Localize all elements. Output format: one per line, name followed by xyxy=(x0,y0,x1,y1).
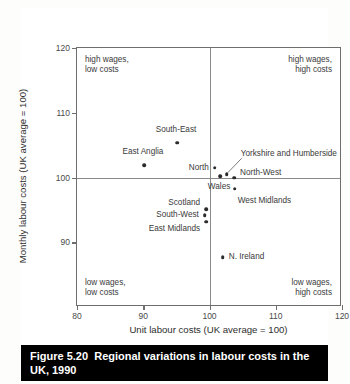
y-tick-label: 120 xyxy=(56,43,70,53)
chart-panel: Monthly labour costs (UK average = 100) … xyxy=(21,8,328,345)
quadrant-note-bottom-left: low wages, low costs xyxy=(85,278,126,299)
x-tick-label: 90 xyxy=(139,311,148,321)
y-tick-label: 110 xyxy=(56,108,70,118)
x-tick-mark xyxy=(342,305,343,310)
data-point xyxy=(213,166,217,170)
reference-line-vertical xyxy=(210,48,211,305)
data-point xyxy=(221,255,225,259)
figure-number: Figure 5.20 xyxy=(30,350,88,362)
data-point-label: North xyxy=(189,163,209,172)
x-tick-mark xyxy=(143,305,144,310)
y-tick-mark xyxy=(72,242,77,243)
y-tick-label: 90 xyxy=(61,237,70,247)
x-tick-label: 110 xyxy=(269,311,283,321)
x-tick-mark xyxy=(77,305,78,310)
y-tick-mark xyxy=(72,48,77,49)
y-tick-label: 100 xyxy=(56,173,70,183)
plot-area: high wages, low costs high wages, high c… xyxy=(76,47,341,306)
data-point xyxy=(232,176,236,180)
reference-line-horizontal xyxy=(77,178,340,179)
y-tick-mark xyxy=(72,178,77,179)
data-point-label: South-East xyxy=(156,125,197,134)
data-point-label: Wales xyxy=(208,183,230,192)
data-point-label: East Midlands xyxy=(149,224,200,233)
data-point-label: West Midlands xyxy=(238,196,292,205)
data-point-label: N. Ireland xyxy=(229,253,265,262)
x-tick-label: 120 xyxy=(335,311,349,321)
y-tick-mark xyxy=(72,113,77,114)
x-tick-label: 80 xyxy=(72,311,81,321)
data-point xyxy=(204,207,208,211)
data-point xyxy=(175,141,179,145)
data-point xyxy=(225,172,229,176)
quadrant-note-top-left: high wages, low costs xyxy=(85,55,129,76)
x-tick-mark xyxy=(210,305,211,310)
x-axis-label: Unit labour costs (UK average = 100) xyxy=(76,324,341,335)
data-point-label: North-West xyxy=(240,168,281,177)
data-point xyxy=(218,174,222,178)
data-point xyxy=(204,220,208,224)
quadrant-note-top-right: high wages, high costs xyxy=(288,55,332,76)
data-point-label: Scotland xyxy=(168,199,200,208)
data-point-label: Yorkshire and Humberside xyxy=(241,150,337,159)
x-tick-mark xyxy=(276,305,277,310)
data-point xyxy=(142,163,146,167)
x-tick-label: 100 xyxy=(202,311,216,321)
quadrant-note-bottom-right: low wages, high costs xyxy=(291,278,332,299)
data-point-label: South-West xyxy=(156,211,199,220)
figure-caption-bar: Figure 5.20 Regional variations in labou… xyxy=(21,345,328,381)
data-point xyxy=(233,187,237,191)
y-axis-label: Monthly labour costs (UK average = 100) xyxy=(17,89,28,264)
data-point xyxy=(203,213,207,217)
data-point-label: East Anglia xyxy=(122,148,163,157)
figure-container: Monthly labour costs (UK average = 100) … xyxy=(0,0,350,384)
